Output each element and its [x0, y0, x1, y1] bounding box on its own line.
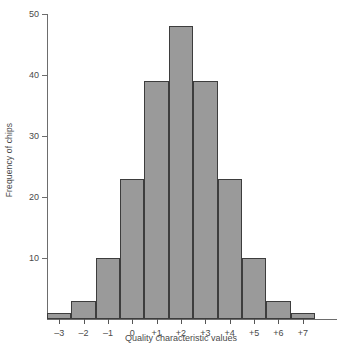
- histogram-bar: [169, 26, 193, 319]
- histogram-bar: [218, 179, 242, 319]
- plot-area: 1020304050 –3–2–10+1+2+3+4+5+6+7: [47, 14, 315, 319]
- y-axis-tick: [42, 258, 47, 259]
- x-axis-tick: [181, 319, 182, 324]
- x-axis-tick: [132, 319, 133, 324]
- histogram-bar: [291, 313, 315, 319]
- y-axis-tick: [42, 136, 47, 137]
- y-axis-tick-label: 40: [29, 70, 39, 80]
- x-axis-tick: [230, 319, 231, 324]
- histogram-bar: [144, 81, 168, 319]
- x-axis-tick: [254, 319, 255, 324]
- histogram-bar: [96, 258, 120, 319]
- histogram-bar: [47, 313, 71, 319]
- histogram-figure: Frequency of chips 1020304050 –3–2–10+1+…: [0, 0, 347, 357]
- y-axis-tick-label: 30: [29, 131, 39, 141]
- y-axis-label: Frequency of chips: [0, 0, 18, 319]
- histogram-bar: [120, 179, 144, 319]
- x-axis-tick: [303, 319, 304, 324]
- x-axis-tick: [278, 319, 279, 324]
- y-axis-tick-label: 50: [29, 9, 39, 19]
- x-axis-tick: [157, 319, 158, 324]
- x-axis-tick: [59, 319, 60, 324]
- histogram-bar: [242, 258, 266, 319]
- y-axis-spine: [47, 14, 48, 319]
- x-axis-label: Quality characteristic values: [47, 333, 315, 343]
- x-axis-spine: [47, 319, 337, 320]
- y-axis-tick: [42, 197, 47, 198]
- y-axis-label-text: Frequency of chips: [4, 122, 14, 197]
- histogram-bar: [71, 301, 95, 319]
- x-axis-tick: [205, 319, 206, 324]
- histogram-bar: [193, 81, 217, 319]
- histogram-bar: [266, 301, 290, 319]
- y-axis-tick-label: 10: [29, 253, 39, 263]
- y-axis-tick: [42, 14, 47, 15]
- y-axis-tick: [42, 75, 47, 76]
- y-axis-tick-label: 20: [29, 192, 39, 202]
- x-axis-tick: [108, 319, 109, 324]
- x-axis-tick: [84, 319, 85, 324]
